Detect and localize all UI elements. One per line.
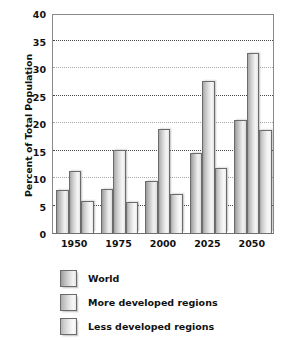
y-axis-tick-label: 25: [2, 91, 46, 102]
bar: [113, 150, 126, 233]
x-axis-tick-label: 1975: [105, 238, 131, 249]
legend-swatch: [60, 318, 77, 335]
bar-group: [190, 15, 228, 233]
x-axis-tick-label: 2025: [194, 238, 220, 249]
legend-label: More developed regions: [88, 297, 218, 308]
bar-group: [101, 15, 139, 233]
bar: [190, 153, 203, 233]
y-axis-tick-label: 0: [2, 229, 46, 240]
y-axis-tick-label: 30: [2, 64, 46, 75]
legend-label: Less developed regions: [88, 321, 214, 332]
bar: [259, 130, 272, 233]
bar-group: [234, 15, 272, 233]
y-axis-tick-label: 40: [2, 9, 46, 20]
x-axis-tick-label: 2050: [239, 238, 265, 249]
bar: [145, 181, 158, 233]
x-axis-tick-labels: 19501975200020252050: [52, 238, 274, 258]
bar-group: [56, 15, 94, 233]
bar: [247, 53, 260, 233]
y-axis-tick-label: 15: [2, 146, 46, 157]
bars-layer: [53, 15, 273, 233]
bar: [158, 129, 171, 234]
legend-swatch: [60, 294, 77, 311]
y-axis-tick-label: 5: [2, 201, 46, 212]
x-axis-tick-label: 1950: [61, 238, 87, 249]
bar-group: [145, 15, 183, 233]
legend-label: World: [88, 273, 119, 284]
y-axis-tick-label: 20: [2, 119, 46, 130]
bar: [215, 168, 228, 233]
bar: [234, 120, 247, 233]
bar: [69, 171, 82, 233]
bar: [170, 194, 183, 233]
y-axis-tick-label: 10: [2, 174, 46, 185]
x-axis-tick-label: 2000: [150, 238, 176, 249]
bar: [126, 202, 139, 233]
bar: [56, 190, 69, 233]
y-axis-tick-label: 35: [2, 36, 46, 47]
legend-swatch: [60, 270, 77, 287]
legend-item: World: [60, 266, 290, 290]
bar: [101, 189, 114, 233]
y-axis-tick-labels: 0510152025303540: [0, 14, 46, 234]
legend-item: Less developed regions: [60, 314, 290, 338]
plot-area: [52, 14, 274, 234]
bar-chart: Percent of Total Population 051015202530…: [0, 0, 294, 340]
legend-item: More developed regions: [60, 290, 290, 314]
bar: [202, 81, 215, 233]
chart-legend: WorldMore developed regionsLess develope…: [60, 266, 290, 338]
bar: [81, 201, 94, 233]
